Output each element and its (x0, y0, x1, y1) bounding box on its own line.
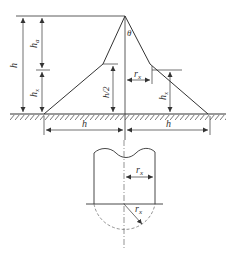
h-total-label: h (8, 63, 19, 68)
lower-view: rx rx (86, 140, 163, 248)
hx-right-label: hx (157, 91, 170, 100)
upper-view: h ha hx h/2 θ rx hx h h (8, 16, 226, 140)
h-half-label: h/2 (101, 86, 111, 98)
object-outline (94, 148, 155, 204)
protection-circle-dashed (94, 204, 155, 229)
hx-left-label: hx (28, 88, 41, 97)
rx-label: rx (134, 68, 142, 81)
ground-hatch (10, 115, 226, 120)
protection-zone-diagram: h ha hx h/2 θ rx hx h h (0, 0, 235, 256)
ha-label: ha (28, 39, 41, 48)
bottom-h-right-label: h (166, 118, 171, 129)
rx-top-label: rx (136, 164, 144, 177)
bottom-h-left-label: h (82, 118, 87, 129)
theta-label: θ (127, 28, 132, 38)
rx-radial-label: rx (135, 203, 143, 216)
